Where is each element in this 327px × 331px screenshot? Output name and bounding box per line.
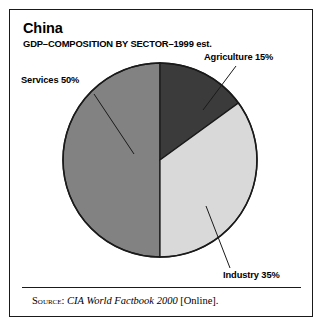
pie-slice-services[interactable] xyxy=(63,63,160,257)
slice-label-industry: Industry 35% xyxy=(223,270,280,280)
figure-panel: China GDP–COMPOSITION BY SECTOR–1999 est… xyxy=(9,9,313,317)
source-line: Source: CIA World Factbook 2000 [Online]… xyxy=(32,295,218,306)
pie-chart: Services 50% Agriculture 15% Industry 35… xyxy=(10,10,313,317)
source-label: Source: xyxy=(32,295,64,306)
source-work-title: CIA World Factbook 2000 xyxy=(67,295,178,306)
source-suffix: [Online]. xyxy=(180,295,218,306)
slice-label-services: Services 50% xyxy=(21,75,79,85)
slice-label-agriculture: Agriculture 15% xyxy=(204,52,273,62)
source-divider xyxy=(22,287,301,288)
